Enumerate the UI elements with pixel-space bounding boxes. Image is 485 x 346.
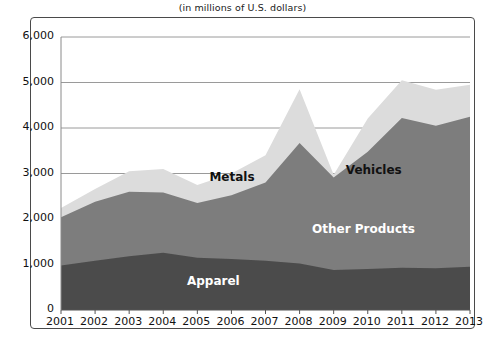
series-label-metals: Metals (209, 170, 254, 184)
chart-subtitle: (in millions of U.S. dollars) (0, 2, 485, 13)
y-axis-tick: 6,000 (8, 29, 54, 42)
y-axis-tick: 3,000 (8, 166, 54, 179)
chart-page: (in millions of U.S. dollars) Metals Veh… (0, 0, 485, 346)
y-axis-tick: 4,000 (8, 120, 54, 133)
y-axis-tick: 2,000 (8, 211, 54, 224)
y-axis-tick: 1,000 (8, 257, 54, 270)
series-label-other-products: Other Products (312, 222, 415, 236)
y-axis-tick: 0 (8, 302, 54, 315)
series-label-vehicles: Vehicles (346, 163, 402, 177)
chart-frame: Metals Vehicles Other Products Apparel (30, 17, 475, 329)
series-label-apparel: Apparel (187, 274, 240, 288)
y-axis-tick: 5,000 (8, 75, 54, 88)
x-axis-tick: 2013 (449, 315, 485, 328)
